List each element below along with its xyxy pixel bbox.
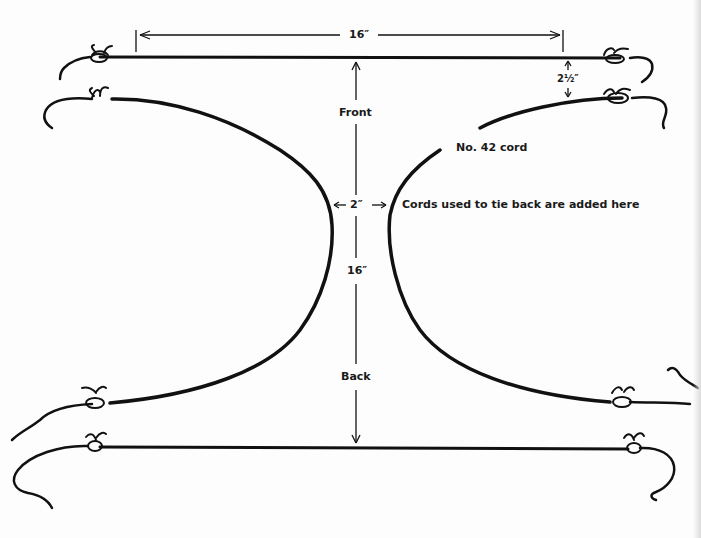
bottom-cord [14, 433, 674, 508]
front-label: Front [339, 106, 372, 119]
front-right-curve [389, 89, 698, 407]
front-left-curve [12, 87, 332, 440]
diagram-canvas: 16″ 2½″ Front No. 42 cord 2″ Cords used … [0, 0, 701, 538]
tie-note-label: Cords used to tie back are added here [402, 198, 639, 211]
spacing-label: 2½″ [557, 72, 579, 85]
page-edge-shadow [693, 0, 701, 538]
top-width-label: 16″ [349, 28, 369, 41]
length-label: 16″ [347, 264, 367, 277]
back-label: Back [341, 370, 371, 383]
cord-label: No. 42 cord [456, 141, 527, 154]
center-length-dimension [352, 62, 360, 443]
gap-label: 2″ [350, 198, 363, 211]
